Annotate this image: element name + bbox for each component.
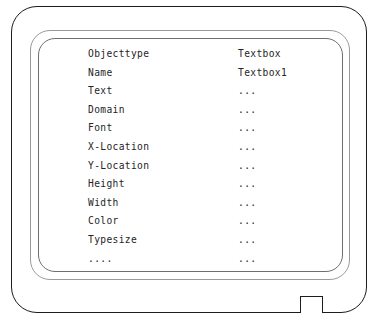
property-value-label: ... xyxy=(238,194,256,213)
property-value-label: ... xyxy=(238,231,256,250)
property-value-label: Textbox xyxy=(238,45,281,64)
property-table: Objecttype Textbox Name Textbox1 Text ..… xyxy=(88,45,298,268)
property-name-label: Height xyxy=(88,175,125,194)
table-row: Objecttype Textbox xyxy=(88,45,298,64)
table-row: X-Location ... xyxy=(88,138,298,157)
property-name-label: Objecttype xyxy=(88,45,149,64)
property-name-label: Width xyxy=(88,194,119,213)
property-value-label: ... xyxy=(238,157,256,176)
property-value-label: ... xyxy=(238,250,256,269)
property-value-label: ... xyxy=(238,175,256,194)
property-value-label: ... xyxy=(238,82,256,101)
property-name-label: Y-Location xyxy=(88,157,149,176)
property-value-label: ... xyxy=(238,101,256,120)
table-row: Text ... xyxy=(88,82,298,101)
table-row: Y-Location ... xyxy=(88,157,298,176)
property-value-label: ... xyxy=(238,119,256,138)
property-name-label: X-Location xyxy=(88,138,149,157)
table-row: Domain ... xyxy=(88,101,298,120)
property-name-label: Domain xyxy=(88,101,125,120)
screenshot-root: Objecttype Textbox Name Textbox1 Text ..… xyxy=(0,0,387,326)
property-name-label: Name xyxy=(88,64,113,83)
property-name-label: Color xyxy=(88,212,119,231)
table-row: Color ... xyxy=(88,212,298,231)
property-name-label: .... xyxy=(88,250,113,269)
property-value-label: Textbox1 xyxy=(238,64,287,83)
table-row: Width ... xyxy=(88,194,298,213)
property-value-label: ... xyxy=(238,138,256,157)
property-value-label: ... xyxy=(238,212,256,231)
property-name-label: Font xyxy=(88,119,113,138)
table-row: Font ... xyxy=(88,119,298,138)
table-row: Typesize ... xyxy=(88,231,298,250)
table-row: .... ... xyxy=(88,250,298,269)
table-row: Height ... xyxy=(88,175,298,194)
table-row: Name Textbox1 xyxy=(88,64,298,83)
monitor-stand-tab xyxy=(300,296,323,313)
property-name-label: Typesize xyxy=(88,231,137,250)
property-name-label: Text xyxy=(88,82,113,101)
